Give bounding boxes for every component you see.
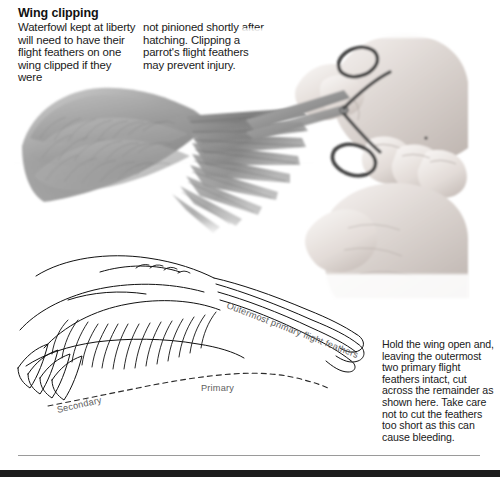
intro-text-column-left: Waterfowl kept at liberty will need to h… — [18, 21, 138, 84]
instruction-note: Hold the wing open and, leaving the oute… — [382, 339, 494, 443]
page-canvas: Wing clipping Waterfowl kept at liberty … — [0, 0, 500, 477]
label-primary: Primary — [201, 383, 234, 393]
footer-divider — [18, 455, 480, 456]
wing-feather-line-diagram — [8, 248, 388, 423]
page-title: Wing clipping — [18, 6, 99, 20]
footer-bar — [0, 470, 500, 477]
